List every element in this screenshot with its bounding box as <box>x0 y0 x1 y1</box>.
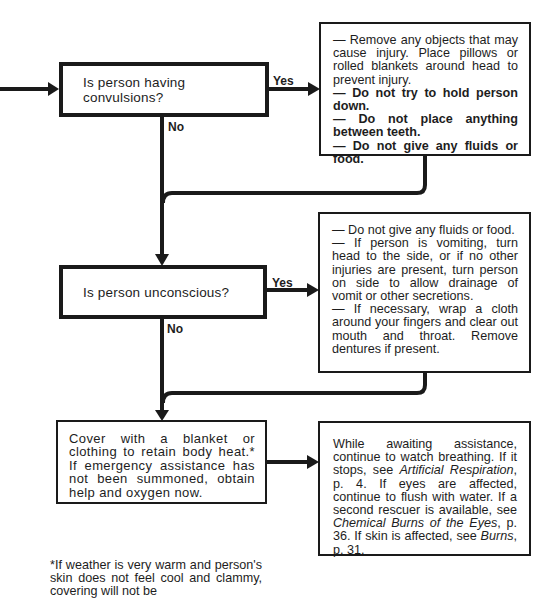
question-unconscious-box: Is person unconscious? <box>59 265 267 319</box>
reference-burns: Burns <box>481 529 514 543</box>
yes-label: Yes <box>272 276 293 290</box>
action-item: — Do not give any fluids or food. <box>333 140 518 166</box>
question-text: Is person unconscious? <box>83 285 229 300</box>
unconscious-actions-box: — Do not give any fluids or food. — If p… <box>318 212 531 373</box>
no-label: No <box>167 322 183 336</box>
action-item: — If person is vomiting, turn head to th… <box>332 237 518 303</box>
yes-label: Yes <box>273 74 294 88</box>
reference-chemical-burns-eyes: Chemical Burns of the Eyes <box>333 516 497 530</box>
question-convulsions-box: Is person having convulsions? <box>59 62 269 117</box>
action-item: — Do not try to hold person down. <box>333 87 518 113</box>
final-step-text: Cover with a blanket or clothing to reta… <box>69 432 255 499</box>
final-step-box: Cover with a blanket or clothing to reta… <box>56 420 267 504</box>
action-item: — Remove any objects that may cause inju… <box>333 34 518 87</box>
reference-artificial-respiration: Artificial Respiration <box>399 463 513 477</box>
footnote: *If weather is very warm and person's sk… <box>50 559 262 598</box>
arrow-into-q1 <box>48 82 59 96</box>
action-item: — If necessary, wrap a cloth around your… <box>332 303 518 356</box>
followup-box: While awaiting assistance, continue to w… <box>318 421 531 556</box>
followup-text: While awaiting assistance, continue to w… <box>333 438 517 557</box>
no-label: No <box>168 120 184 134</box>
question-text: Is person having convulsions? <box>83 75 265 105</box>
convulsions-actions-box: — Remove any objects that may cause inju… <box>319 22 531 156</box>
action-item: — Do not place anything between teeth. <box>333 113 518 139</box>
